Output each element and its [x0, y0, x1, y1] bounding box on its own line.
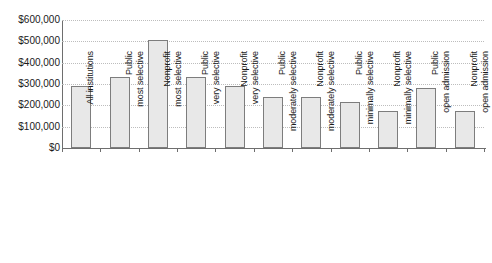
- x-axis-category-label: Nonprofit open admission: [469, 51, 492, 155]
- y-axis-tick-label: $100,000: [2, 122, 60, 132]
- x-axis-tick: [484, 148, 485, 152]
- x-axis-tick: [446, 148, 447, 152]
- x-axis-tick: [369, 148, 370, 152]
- x-axis-tick: [331, 148, 332, 152]
- gridline: [62, 20, 484, 21]
- y-axis-tick-label: $400,000: [2, 58, 60, 68]
- x-axis-category-label: Public very selective: [200, 51, 224, 155]
- x-axis-category-label: Public open admission: [430, 51, 454, 155]
- x-axis-category-label: Nonprofit moderately selective: [315, 51, 339, 155]
- gridline: [62, 41, 484, 42]
- x-axis-tick: [139, 148, 140, 152]
- y-axis-tick-label: $200,000: [2, 100, 60, 110]
- x-axis-category-label: Public moderately selective: [277, 51, 301, 155]
- x-axis-tick: [292, 148, 293, 152]
- x-axis-category-label: Public most selective: [124, 51, 148, 155]
- y-axis-tick-label: $600,000: [2, 15, 60, 25]
- y-axis-tick-label: $500,000: [2, 36, 60, 46]
- x-axis-category-label: Nonprofit most selective: [162, 51, 186, 155]
- y-axis-tick-label: $0: [2, 143, 60, 153]
- x-axis-category-label: Public minimally selective: [354, 51, 378, 155]
- x-axis-tick: [62, 148, 63, 152]
- x-axis-tick: [100, 148, 101, 152]
- x-axis-tick: [254, 148, 255, 152]
- x-axis-tick: [215, 148, 216, 152]
- x-axis-tick: [407, 148, 408, 152]
- x-axis-tick: [177, 148, 178, 152]
- y-axis-tick-labels: $600,000$500,000$400,000$300,000$200,000…: [0, 0, 60, 263]
- x-axis-category-label: Nonprofit minimally selective: [392, 51, 416, 155]
- x-axis-category-label: Nonprofit very selective: [239, 51, 263, 155]
- x-axis-category-label: All institutions: [85, 51, 109, 155]
- bar-chart: $600,000$500,000$400,000$300,000$200,000…: [0, 0, 492, 263]
- y-axis-tick-label: $300,000: [2, 79, 60, 89]
